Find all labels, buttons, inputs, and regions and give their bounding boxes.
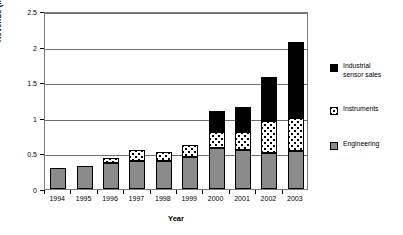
x-axis-tick-mark (44, 190, 45, 194)
x-axis-tick-mark (123, 190, 124, 194)
x-axis-tick-mark (97, 190, 98, 194)
bar-segment-engineering (261, 153, 277, 189)
bar-stack (50, 11, 66, 189)
legend-swatch-icon (330, 64, 338, 72)
bar-segment-engineering (129, 161, 145, 189)
bar-segment-industrial-sensor-sales (261, 77, 277, 122)
bar-segment-instruments (288, 118, 304, 151)
bar-stack (156, 11, 172, 189)
legend-item-industrial-sensor-sales[interactable]: Industrialsensor sales (330, 62, 403, 79)
y-axis-tick-label: 1 (15, 115, 37, 122)
legend-label: Instruments (343, 105, 403, 114)
bar-segment-engineering (209, 148, 225, 189)
bar-segment-engineering (103, 163, 119, 189)
bar-segment-industrial-sensor-sales (235, 107, 251, 132)
bar-segment-instruments (103, 158, 119, 163)
bar-segment-instruments (209, 132, 225, 148)
bar-segment-instruments (261, 121, 277, 153)
bar-segment-engineering (156, 161, 172, 189)
bar-segment-instruments (235, 132, 251, 150)
bar-stack (209, 11, 225, 189)
x-axis-tick-mark (202, 190, 203, 194)
plot-area (44, 12, 308, 190)
bar-stack (129, 11, 145, 189)
legend-label: Engineering (343, 140, 403, 149)
y-axis-tick-label: 2.5 (15, 9, 37, 16)
legend-item-engineering[interactable]: Engineering (330, 140, 403, 149)
bar-segment-engineering (288, 151, 304, 189)
x-axis-tick-mark (255, 190, 256, 194)
bar-stack (77, 11, 93, 189)
bar-segment-engineering (50, 168, 66, 189)
x-axis-title: Year (44, 214, 308, 223)
y-axis-tick-label: 1.5 (15, 80, 37, 87)
legend-label: Industrial (343, 62, 403, 71)
bar-segment-engineering (182, 157, 198, 189)
bar-segment-instruments (182, 145, 198, 157)
revenue-stacked-bar-chart: Revenue (million CHF) 00.511.522.5 19941… (0, 0, 403, 235)
y-axis-tick-label: 0.5 (15, 151, 37, 158)
bar-segment-instruments (129, 150, 145, 161)
legend-swatch-icon (330, 107, 338, 115)
x-axis-tick-mark (229, 190, 230, 194)
bar-segment-engineering (77, 166, 93, 189)
bar-stack (182, 11, 198, 189)
bar-stack (235, 11, 251, 189)
x-axis-tick-label: 2003 (280, 195, 310, 202)
y-axis-title: Revenue (million CHF) (0, 0, 3, 60)
y-axis-tick-label: 0 (15, 187, 37, 194)
bar-segment-instruments (156, 152, 172, 161)
bar-stack (261, 11, 277, 189)
bar-segment-industrial-sensor-sales (288, 42, 304, 118)
chart-legend: Industrialsensor salesInstrumentsEnginee… (330, 62, 403, 174)
bar-stack (288, 11, 304, 189)
legend-label-continued: sensor sales (343, 71, 403, 80)
y-axis-tick-label: 2 (15, 44, 37, 51)
x-axis-tick-mark (70, 190, 71, 194)
bar-segment-engineering (235, 150, 251, 189)
x-axis-tick-mark (176, 190, 177, 194)
legend-swatch-icon (330, 142, 338, 150)
legend-item-instruments[interactable]: Instruments (330, 105, 403, 114)
x-axis-tick-mark (282, 190, 283, 194)
bar-stack (103, 11, 119, 189)
bar-segment-industrial-sensor-sales (209, 111, 225, 132)
x-axis-tick-mark (150, 190, 151, 194)
